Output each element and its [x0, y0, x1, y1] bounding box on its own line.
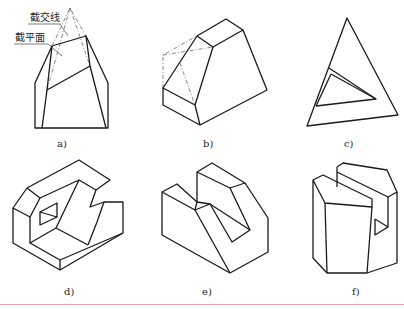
intersection-line-label: 截交线	[30, 11, 60, 23]
panel-label-c: c)	[344, 138, 354, 149]
cutting-plane-section	[47, 36, 90, 90]
panel-label-b: b)	[203, 138, 213, 149]
panel-label-d: d)	[64, 286, 74, 297]
panel-label-f: f)	[352, 286, 360, 297]
panel-f-slotted-prism	[313, 163, 397, 273]
figure-canvas: 截交线 截平面 a) b) c) d)	[0, 0, 404, 309]
panel-label-e: e)	[202, 286, 212, 297]
panel-a-truncated-pyramid	[14, 8, 108, 128]
panel-label-a: a)	[57, 138, 67, 149]
panel-b-cut-block	[163, 19, 267, 125]
panel-c-triangular-solid	[307, 18, 398, 126]
cutting-plane-label: 截平面	[15, 31, 45, 43]
bottom-divider	[0, 304, 404, 305]
panel-d-slotted-block	[13, 160, 123, 270]
panel-e-slotted-wedge	[162, 163, 268, 273]
